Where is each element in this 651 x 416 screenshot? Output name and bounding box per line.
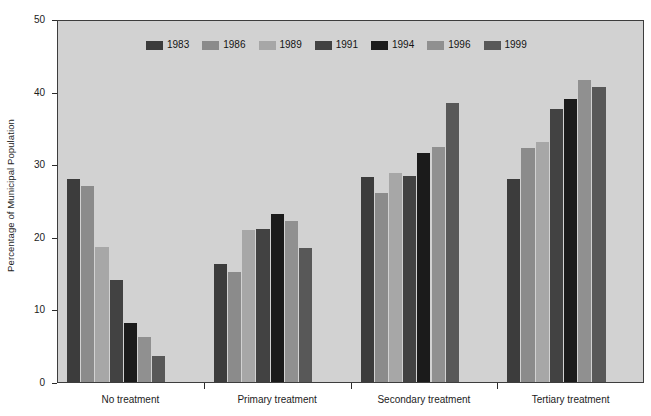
y-tick-mark [52, 383, 57, 384]
legend-swatch-icon [484, 41, 501, 50]
bar [271, 214, 284, 382]
bar [110, 280, 123, 382]
legend-item-1994[interactable]: 1994 [371, 40, 414, 50]
legend-label: 1996 [448, 40, 470, 50]
bar [299, 248, 312, 382]
bar [242, 230, 255, 382]
bar [124, 323, 137, 382]
bar [550, 109, 563, 382]
legend-item-1999[interactable]: 1999 [484, 40, 527, 50]
legend-label: 1991 [336, 40, 358, 50]
plot-area [57, 20, 644, 383]
bar [389, 173, 402, 382]
bar [361, 177, 374, 382]
legend-label: 1983 [167, 40, 189, 50]
legend-swatch-icon [202, 41, 219, 50]
bar [375, 193, 388, 382]
y-axis-title-text: Percentage of Municipal Population [5, 119, 16, 272]
legend-swatch-icon [259, 41, 276, 50]
bar [152, 356, 165, 382]
y-tick-label: 30 [19, 160, 45, 170]
bar [536, 142, 549, 382]
legend-item-1996[interactable]: 1996 [427, 40, 470, 50]
bar [521, 148, 534, 382]
legend-item-1991[interactable]: 1991 [315, 40, 358, 50]
bar [214, 264, 227, 382]
legend-label: 1989 [280, 40, 302, 50]
legend-swatch-icon [427, 41, 444, 50]
bar [446, 103, 459, 383]
x-tick-mark [204, 383, 205, 389]
x-category-label: No treatment [57, 394, 204, 405]
bar [417, 153, 430, 382]
y-tick-label: 40 [19, 88, 45, 98]
y-tick-label: 10 [19, 305, 45, 315]
bar [578, 80, 591, 382]
bar [403, 176, 416, 382]
y-tick-label: 50 [19, 15, 45, 25]
legend-swatch-icon [315, 41, 332, 50]
legend-swatch-icon [146, 41, 163, 50]
bar [95, 247, 108, 382]
bar [256, 229, 269, 382]
x-tick-mark [351, 383, 352, 389]
legend-item-1989[interactable]: 1989 [259, 40, 302, 50]
y-axis-title: Percentage of Municipal Population [0, 0, 20, 390]
legend: 1983198619891991199419961999 [146, 40, 527, 50]
bar [138, 337, 151, 382]
legend-label: 1986 [223, 40, 245, 50]
y-tick-label: 20 [19, 233, 45, 243]
bar [285, 221, 298, 382]
legend-label: 1994 [392, 40, 414, 50]
x-tick-mark [497, 383, 498, 389]
y-tick-label: 0 [19, 378, 45, 388]
bar [67, 179, 80, 382]
bar [507, 179, 520, 382]
x-category-label: Primary treatment [204, 394, 351, 405]
legend-label: 1999 [505, 40, 527, 50]
bar-chart: Percentage of Municipal Population 01020… [0, 0, 651, 416]
legend-swatch-icon [371, 41, 388, 50]
bar [432, 147, 445, 382]
bar [564, 99, 577, 382]
bar [592, 87, 605, 382]
x-category-label: Secondary treatment [351, 394, 498, 405]
legend-item-1983[interactable]: 1983 [146, 40, 189, 50]
bar [228, 272, 241, 382]
bars-container [58, 21, 643, 382]
x-category-label: Tertiary treatment [497, 394, 644, 405]
legend-item-1986[interactable]: 1986 [202, 40, 245, 50]
bar [81, 186, 94, 382]
